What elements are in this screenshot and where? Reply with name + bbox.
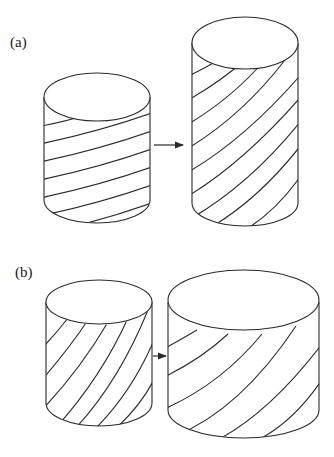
cylinder-a-before (30, 73, 160, 240)
winding-lines-b-after (162, 326, 325, 448)
cylinder-b-after (162, 270, 325, 448)
cylinder-a-after (185, 17, 305, 240)
winding-lines-b-before (40, 310, 160, 432)
winding-lines-a-after (185, 58, 305, 240)
cylinder-b-before (40, 280, 160, 432)
diagram-canvas (0, 0, 334, 457)
